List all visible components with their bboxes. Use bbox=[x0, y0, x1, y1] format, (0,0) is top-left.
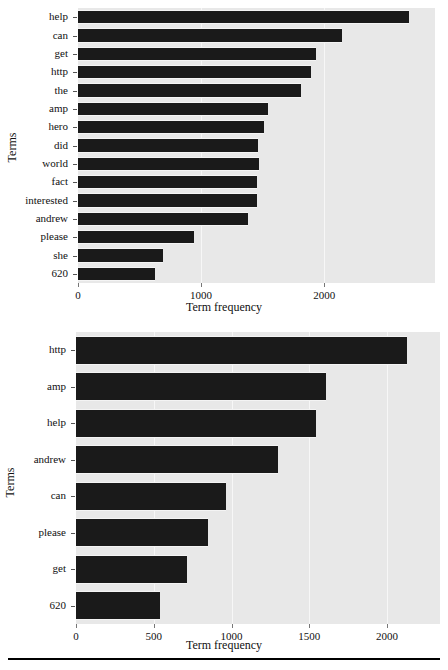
bar bbox=[78, 248, 163, 263]
bar-row bbox=[78, 28, 435, 43]
bar bbox=[78, 157, 259, 172]
bar bbox=[76, 336, 407, 365]
y-tick-mark bbox=[71, 387, 75, 388]
bar-row bbox=[76, 591, 440, 620]
bar-row bbox=[76, 482, 440, 511]
plot-area-bottom bbox=[76, 332, 440, 624]
bar-row bbox=[78, 47, 435, 62]
bar bbox=[76, 445, 278, 474]
y-tick-mark bbox=[73, 109, 77, 110]
y-tick-mark bbox=[71, 569, 75, 570]
bar bbox=[78, 10, 409, 25]
y-tick-label: 620 bbox=[0, 268, 68, 279]
bar bbox=[76, 372, 326, 401]
chart-top: helpcangethttptheampherodidworldfactinte… bbox=[0, 0, 448, 320]
x-tick-mark bbox=[201, 283, 202, 287]
y-tick-mark bbox=[73, 91, 77, 92]
bar bbox=[76, 518, 208, 547]
y-tick-mark bbox=[71, 423, 75, 424]
bar-row bbox=[78, 248, 435, 263]
bar bbox=[78, 47, 316, 62]
bar bbox=[78, 83, 301, 98]
plot-area-top bbox=[78, 8, 435, 283]
x-tick-mark bbox=[309, 624, 310, 628]
y-tick-label: amp bbox=[0, 103, 68, 114]
y-tick-label: 620 bbox=[0, 600, 66, 611]
bar bbox=[78, 230, 194, 245]
bar-row bbox=[78, 193, 435, 208]
plot-wrapper-bottom: httpamphelpandrewcanpleaseget620 0500100… bbox=[0, 320, 448, 650]
y-tick-label: http bbox=[0, 66, 68, 77]
y-tick-label: http bbox=[0, 344, 66, 355]
bar bbox=[78, 267, 155, 282]
bar-row bbox=[78, 230, 435, 245]
bar bbox=[76, 482, 226, 511]
y-tick-mark bbox=[71, 496, 75, 497]
y-tick-mark bbox=[73, 146, 77, 147]
bar bbox=[78, 212, 248, 227]
bar-row bbox=[78, 65, 435, 80]
y-axis-title-bottom: Terms bbox=[3, 463, 18, 503]
y-tick-label: get bbox=[0, 48, 68, 59]
bar-row bbox=[78, 212, 435, 227]
y-tick-label: please bbox=[0, 231, 68, 242]
bar-row bbox=[78, 120, 435, 135]
y-tick-label: help bbox=[0, 11, 68, 22]
y-tick-mark bbox=[71, 533, 75, 534]
bar-row bbox=[76, 555, 440, 584]
chart-bottom: httpamphelpandrewcanpleaseget620 0500100… bbox=[0, 320, 448, 650]
bar bbox=[78, 102, 268, 117]
y-tick-mark bbox=[73, 182, 77, 183]
y-tick-mark bbox=[71, 350, 75, 351]
y-tick-mark bbox=[73, 219, 77, 220]
bar-row bbox=[76, 372, 440, 401]
plot-wrapper-top: helpcangethttptheampherodidworldfactinte… bbox=[0, 0, 448, 320]
y-axis-title-top: Terms bbox=[5, 128, 20, 168]
x-axis-title-bottom: Term frequency bbox=[0, 638, 448, 653]
y-tick-label: she bbox=[0, 250, 68, 261]
y-tick-label: get bbox=[0, 563, 66, 574]
bar-row bbox=[78, 267, 435, 282]
bar-row bbox=[78, 83, 435, 98]
y-tick-label: amp bbox=[0, 381, 66, 392]
y-tick-mark bbox=[73, 237, 77, 238]
y-tick-label: can bbox=[0, 30, 68, 41]
bar bbox=[78, 65, 311, 80]
bar bbox=[78, 138, 258, 153]
y-tick-label: please bbox=[0, 527, 66, 538]
bar bbox=[78, 193, 257, 208]
y-tick-mark bbox=[73, 72, 77, 73]
x-axis-title-top: Term frequency bbox=[0, 300, 448, 315]
y-tick-label: fact bbox=[0, 176, 68, 187]
y-tick-label: help bbox=[0, 417, 66, 428]
x-tick-mark bbox=[78, 283, 79, 287]
y-tick-mark bbox=[73, 36, 77, 37]
bar bbox=[78, 28, 342, 43]
y-tick-mark bbox=[73, 164, 77, 165]
y-tick-mark bbox=[71, 606, 75, 607]
x-tick-mark bbox=[154, 624, 155, 628]
y-tick-mark bbox=[73, 256, 77, 257]
bar-row bbox=[78, 175, 435, 190]
bar-row bbox=[76, 336, 440, 365]
bar bbox=[76, 409, 316, 438]
y-tick-mark bbox=[73, 201, 77, 202]
y-tick-label: the bbox=[0, 85, 68, 96]
x-tick-mark bbox=[76, 624, 77, 628]
bar-row bbox=[76, 518, 440, 547]
x-tick-mark bbox=[324, 283, 325, 287]
x-tick-mark bbox=[232, 624, 233, 628]
y-tick-label: andrew bbox=[0, 213, 68, 224]
bar-row bbox=[78, 102, 435, 117]
y-tick-label: interested bbox=[0, 195, 68, 206]
figure-page: helpcangethttptheampherodidworldfactinte… bbox=[0, 0, 448, 670]
bar-row bbox=[76, 445, 440, 474]
bar bbox=[76, 555, 187, 584]
bar-row bbox=[78, 10, 435, 25]
bar-row bbox=[78, 138, 435, 153]
y-tick-mark bbox=[73, 127, 77, 128]
bar-row bbox=[78, 157, 435, 172]
y-tick-mark bbox=[73, 54, 77, 55]
bar bbox=[78, 175, 257, 190]
y-tick-mark bbox=[71, 460, 75, 461]
